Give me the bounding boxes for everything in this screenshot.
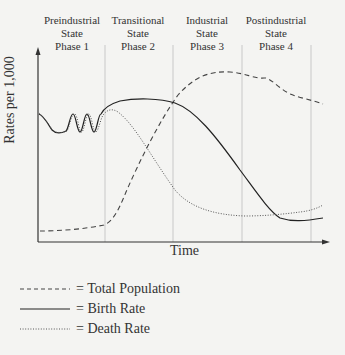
legend-item-birth-rate: = Birth Rate bbox=[20, 299, 180, 319]
x-axis-arrow-icon bbox=[322, 240, 330, 245]
solid-line-swatch-icon bbox=[20, 304, 70, 314]
x-axis-label: Time bbox=[170, 243, 199, 259]
legend-label: = Birth Rate bbox=[76, 301, 145, 317]
y-axis-arrow-icon bbox=[36, 47, 41, 55]
total-population-line bbox=[40, 72, 323, 231]
legend-label: = Death Rate bbox=[76, 321, 150, 337]
birth-rate-line bbox=[39, 99, 323, 221]
death-rate-line bbox=[39, 110, 323, 216]
axes bbox=[36, 47, 331, 245]
y-axis-label: Rates per 1,000 bbox=[2, 40, 18, 160]
phase-dividers bbox=[105, 45, 311, 242]
legend-item-death-rate: = Death Rate bbox=[20, 319, 180, 339]
legend: = Total Population = Birth Rate = Death … bbox=[20, 279, 180, 339]
legend-item-total-population: = Total Population bbox=[20, 279, 180, 299]
dashed-line-swatch-icon bbox=[20, 284, 70, 294]
legend-label: = Total Population bbox=[76, 281, 180, 297]
dotted-line-swatch-icon bbox=[20, 324, 70, 334]
